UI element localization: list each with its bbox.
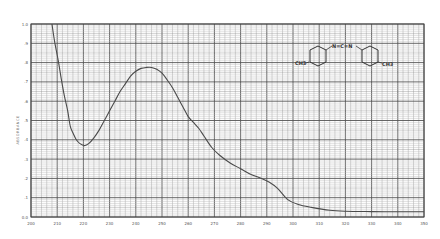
y-tick-label: .6 (24, 99, 28, 104)
x-tick-label: 250 (158, 221, 166, 226)
y-tick-label: .1 (24, 195, 28, 200)
x-tick-label: 310 (315, 221, 323, 226)
x-tick-label: 200 (27, 221, 35, 226)
uv-spectrum-chart: 2002102202302402502602702802903003103203… (0, 0, 440, 239)
structure-right-group: CH3 (382, 61, 394, 67)
x-tick-label: 230 (106, 221, 114, 226)
structure-linker: N=C=N (332, 43, 352, 49)
structure-left-group: CH3 (295, 60, 307, 66)
y-tick-label: .8 (24, 60, 28, 65)
y-tick-label: .2 (24, 176, 28, 181)
x-tick-label: 350 (420, 221, 428, 226)
y-tick-label: .4 (24, 137, 28, 142)
y-axis-title: ABSORBANCE (16, 115, 20, 144)
y-tick-label: .3 (24, 157, 28, 162)
x-tick-label: 340 (394, 221, 402, 226)
y-tick-label: .5 (24, 118, 28, 123)
x-tick-label: 240 (132, 221, 140, 226)
x-tick-label: 270 (211, 221, 219, 226)
y-tick-label: 1.0 (22, 22, 29, 27)
x-tick-label: 330 (368, 221, 376, 226)
grid (31, 24, 424, 217)
x-tick-label: 260 (184, 221, 192, 226)
chart-background (0, 0, 440, 239)
x-tick-label: 290 (263, 221, 271, 226)
y-tick-label: 0.0 (22, 215, 29, 220)
x-tick-label: 220 (80, 221, 88, 226)
x-tick-label: 320 (342, 221, 350, 226)
x-tick-label: 280 (237, 221, 245, 226)
x-tick-label: 210 (53, 221, 61, 226)
x-tick-label: 300 (289, 221, 297, 226)
y-tick-label: .9 (24, 41, 28, 46)
y-tick-label: .7 (24, 79, 28, 84)
